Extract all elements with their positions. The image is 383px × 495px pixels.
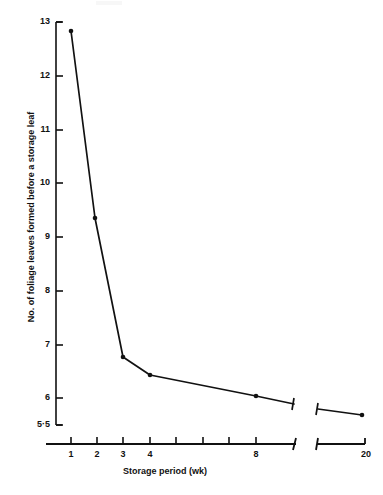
data-point bbox=[254, 394, 259, 399]
chart-figure: 13 12 11 10 9 8 7 6 5·5 1 2 3 4 8 20 No.… bbox=[0, 0, 383, 495]
data-point bbox=[93, 216, 98, 221]
data-line bbox=[71, 31, 362, 415]
y-axis-title: No. of foliage leaves formed before a st… bbox=[26, 102, 36, 332]
y-tick-label-6: 6 bbox=[20, 393, 50, 402]
data-point bbox=[148, 373, 153, 378]
data-point bbox=[69, 29, 74, 34]
x-tick-label-2: 2 bbox=[87, 450, 107, 459]
x-tick-label-4: 4 bbox=[140, 450, 160, 459]
x-tick-label-1: 1 bbox=[61, 450, 81, 459]
x-tick-label-8: 8 bbox=[246, 450, 266, 459]
x-axis-title: Storage period (wk) bbox=[40, 466, 290, 476]
data-point bbox=[360, 413, 365, 418]
y-tick-label-7: 7 bbox=[20, 340, 50, 349]
data-point bbox=[121, 355, 126, 360]
x-tick-label-3: 3 bbox=[113, 450, 133, 459]
line-chart-plot bbox=[0, 0, 383, 495]
y-tick-label-13: 13 bbox=[20, 17, 50, 26]
y-axis-ticks bbox=[56, 22, 63, 425]
x-tick-label-20: 20 bbox=[355, 450, 377, 459]
y-tick-label-5-5: 5·5 bbox=[14, 420, 50, 429]
y-tick-label-12: 12 bbox=[20, 71, 50, 80]
y-axis bbox=[56, 22, 63, 425]
x-axis-ticks bbox=[71, 437, 256, 444]
data-point-markers bbox=[69, 29, 365, 418]
